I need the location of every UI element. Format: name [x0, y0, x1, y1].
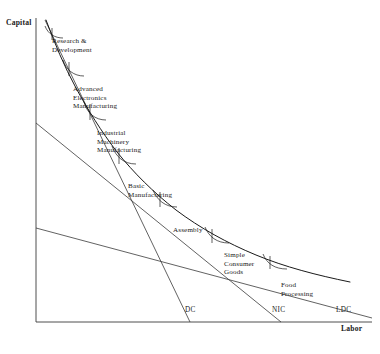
label-isocost-ldc: LDC [336, 306, 351, 315]
y-axis-label: Capital [6, 19, 31, 28]
label-isocost-dc: DC [185, 306, 196, 315]
x-axis-label: Labor [341, 325, 362, 334]
label-simple-consumer-goods: Simple Consumer Goods [224, 251, 254, 277]
isoquant-diagram: Capital Labor Research & Development Adv… [0, 0, 380, 354]
isocost-line-ldc [36, 228, 372, 318]
isocost-line-dc [45, 20, 190, 322]
label-food-processing: Food Processing [281, 281, 313, 298]
label-advanced-electronics-manufacturing: Advanced Electronics Manufacturing [73, 85, 117, 111]
annotation-hook-food-processing [263, 254, 287, 269]
label-research-development: Research & Development [52, 37, 92, 54]
label-industrial-machinery-manufacturing: Industrial Machinery Manufacturing [97, 129, 141, 155]
label-isocost-nic: NIC [272, 306, 285, 315]
isocost-line-nic [36, 123, 281, 322]
label-assembly: Assembly [173, 226, 203, 235]
label-basic-manufacturing: Basic Manufacturing [128, 182, 172, 199]
